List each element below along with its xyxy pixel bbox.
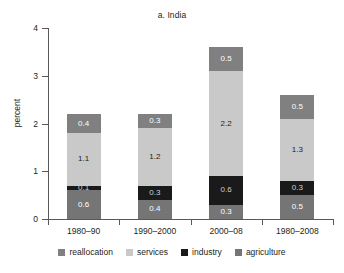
bar-stack[interactable]: 0.41.10.10.6 [67,114,101,219]
x-axis-tick [333,219,334,225]
bar-segment-value: 0.4 [149,205,160,213]
legend-swatch-icon [126,249,133,256]
y-axis-tick-label: 3 [8,72,38,81]
bar-segment-industry[interactable]: 0.3 [280,181,314,195]
chart-title: a. India [0,10,344,20]
x-axis-category-label: 1980–2008 [252,226,342,236]
bar-segment-value: 1.2 [149,153,160,161]
legend-item-label: reallocation [69,248,112,257]
y-axis-title: percent [12,83,22,143]
bar-segment-value: 0.4 [78,120,89,128]
legend-item-label: industry [192,248,222,257]
bar-segment-reallocation[interactable]: 0.5 [280,95,314,119]
bar-segment-agriculture[interactable]: 0.4 [138,200,172,219]
plot-area: 0.41.10.10.60.31.20.30.40.52.20.60.30.51… [48,28,333,219]
chart-legend: reallocationservicesindustryagriculture [0,248,344,257]
bar-segment-value: 0.3 [149,189,160,197]
legend-item-agriculture[interactable]: agriculture [235,248,286,257]
y-axis-tick-label: 0 [8,215,38,224]
legend-item-services[interactable]: services [126,248,168,257]
bar-segment-value: 2.2 [221,120,232,128]
bar-segment-value: 1.1 [78,155,89,163]
y-axis-tick-label: 2 [8,120,38,129]
bar-segment-agriculture[interactable]: 0.6 [67,190,101,219]
bar-segment-value: 0.6 [78,201,89,209]
x-axis-tick [262,219,263,225]
bar-segment-reallocation[interactable]: 0.4 [67,114,101,133]
bar-segment-services[interactable]: 1.3 [280,119,314,181]
legend-swatch-icon [181,249,188,256]
bar-segment-reallocation[interactable]: 0.5 [209,47,243,71]
bar-stack[interactable]: 0.52.20.60.3 [209,47,243,219]
bar-stack[interactable]: 0.51.30.30.5 [280,95,314,219]
bar-segment-value: 0.5 [292,103,303,111]
legend-item-reallocation[interactable]: reallocation [58,248,112,257]
legend-swatch-icon [58,249,65,256]
legend-item-label: agriculture [246,248,286,257]
bar-segment-services[interactable]: 1.2 [138,128,172,185]
bar-segment-value: 0.6 [221,186,232,194]
bar-segment-reallocation[interactable]: 0.3 [138,114,172,128]
bar-segment-industry[interactable]: 0.3 [138,186,172,200]
chart-figure: a. India percent 01234 0.41.10.10.60.31.… [0,0,344,273]
bar-segment-agriculture[interactable]: 0.3 [209,205,243,219]
bar-segment-value: 0.5 [292,203,303,211]
bar-segment-value: 1.3 [292,146,303,154]
legend-item-industry[interactable]: industry [181,248,222,257]
bar-segment-value: 0.3 [292,184,303,192]
y-axis-tick-label: 4 [8,24,38,33]
bar-segment-services[interactable]: 2.2 [209,71,243,176]
bar-segment-services[interactable]: 1.1 [67,133,101,186]
bar-segment-value: 0.5 [221,55,232,63]
x-axis-tick [48,219,49,225]
bar-segment-industry[interactable]: 0.6 [209,176,243,205]
bar-stack[interactable]: 0.31.20.30.4 [138,114,172,219]
y-axis-tick-label: 1 [8,167,38,176]
bar-segment-value: 0.3 [149,117,160,125]
x-axis-tick [191,219,192,225]
bar-segment-value: 0.3 [221,208,232,216]
bar-segment-agriculture[interactable]: 0.5 [280,195,314,219]
legend-swatch-icon [235,249,242,256]
x-axis-tick [119,219,120,225]
legend-item-label: services [137,248,168,257]
